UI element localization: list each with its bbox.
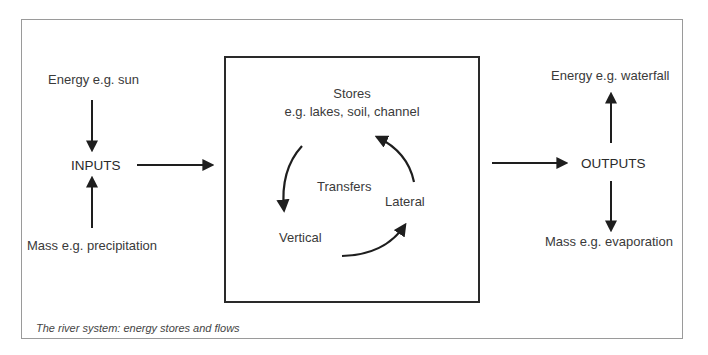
outputs-label: OUTPUTS <box>581 156 646 171</box>
stores-title: Stores <box>333 86 371 101</box>
energy-input-label: Energy e.g. sun <box>48 72 139 87</box>
stores-examples: e.g. lakes, soil, channel <box>284 104 419 119</box>
arrows-layer <box>0 0 708 355</box>
mass-output-label: Mass e.g. evaporation <box>545 234 673 249</box>
vertical-transfer-arc <box>283 146 302 210</box>
lateral-label: Lateral <box>385 194 425 209</box>
vertical-label: Vertical <box>279 230 322 245</box>
inputs-label: INPUTS <box>71 158 121 173</box>
diagram-caption: The river system: energy stores and flow… <box>36 322 240 334</box>
mass-input-label: Mass e.g. precipitation <box>27 238 157 253</box>
lateral-transfer-arc-bottom <box>342 225 405 256</box>
transfers-label: Transfers <box>317 179 371 194</box>
energy-output-label: Energy e.g. waterfall <box>551 68 670 83</box>
lateral-transfer-arc-top <box>377 137 414 182</box>
